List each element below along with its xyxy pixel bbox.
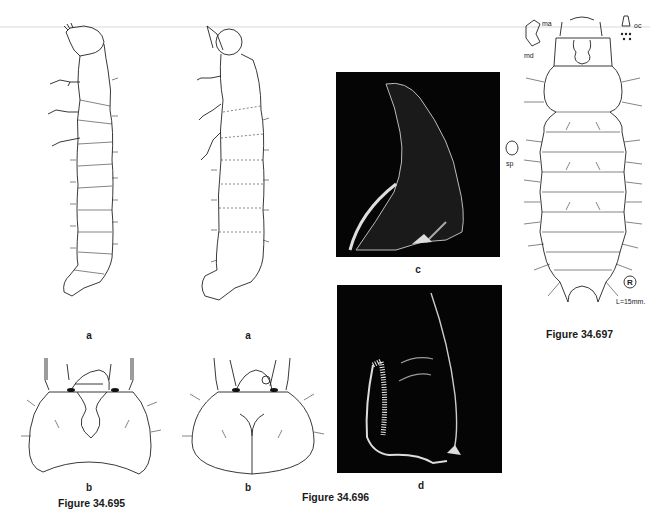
scale-label: L=15mm. (616, 298, 645, 305)
panel-label-695b: b (79, 482, 99, 493)
fig-34-697-larva-dorsal-illustration: ma md oc sp R L=15mm. (520, 12, 650, 332)
fig-34-696-a-larva-illustration (195, 20, 290, 305)
annotation-oc: oc (634, 22, 642, 29)
panel-label-695a: a (79, 330, 99, 341)
copyright-mark: R (627, 278, 633, 287)
panel-label-696b: b (238, 482, 258, 493)
figure-caption-34-697: Figure 34.697 (546, 328, 613, 340)
fig-34-695-a-larva-illustration (40, 20, 130, 300)
fig-34-696-c-sem-micrograph (336, 72, 500, 257)
fig-34-695-b-head-capsule-illustration (15, 350, 165, 480)
panel-label-696c: c (408, 264, 428, 275)
annotation-sp: sp (506, 160, 514, 168)
figure-caption-34-696: Figure 34.696 (302, 491, 369, 503)
annotation-md: md (524, 52, 534, 59)
panel-label-696a: a (238, 330, 258, 341)
figure-caption-34-695: Figure 34.695 (58, 497, 125, 509)
annotation-ma: ma (542, 20, 552, 27)
panel-label-696d: d (411, 480, 431, 491)
fig-34-696-d-sem-micrograph (337, 285, 502, 473)
fig-34-696-b-head-capsule-illustration (178, 350, 328, 480)
